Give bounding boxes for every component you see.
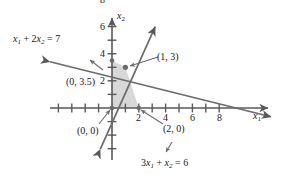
y-tick-label-6: 6 [100,22,105,32]
leader-vertex [130,57,158,66]
point-label-x-intercept: (2, 0) [163,124,185,134]
leader-equation-b [166,142,172,152]
equation-label-b: 3x1 + x2 = 6 [141,158,188,170]
eq-b-p5: = 6 [173,157,189,168]
eq-a-p2: + 2 [21,33,37,44]
y-axis-label-sub: 2 [121,15,125,23]
eq-b-p3: + [154,157,165,168]
x-tick-label-4: 4 [163,113,168,123]
point-x-intercept-marker [137,106,142,111]
x-tick-label-6: 6 [190,113,195,123]
point-label-y-intercept: (0, 3.5) [66,77,95,87]
x-tick-label-8: 8 [217,113,222,123]
point-label-origin: (0, 0) [77,126,99,136]
point-y-intercept-marker [110,58,115,63]
y-axis-label: x2 [117,11,125,23]
equation-label-a: x1 + 2x2 = 7 [13,34,60,46]
y-tick-label-2: 2 [100,76,105,86]
x-axis-label-sub: 1 [257,115,261,123]
eq-a-p4: = 7 [45,33,61,44]
point-vertex-marker [123,65,128,70]
x-tick-label-2: 2 [136,113,141,123]
y-tick-label-4: 4 [100,49,105,59]
constraint-line-b [100,27,155,150]
x-axis-label: x1 [253,111,261,123]
leader-equation-a [90,60,103,70]
point-label-vertex: (1, 3) [157,52,179,62]
linear-programming-figure: x1 x2 2 4 6 8 2 4 6 8 x1 + 2x2 = 7 3x1 +… [0,0,285,188]
point-origin-marker [110,106,115,111]
y-tick-label-8: 8 [100,0,105,5]
